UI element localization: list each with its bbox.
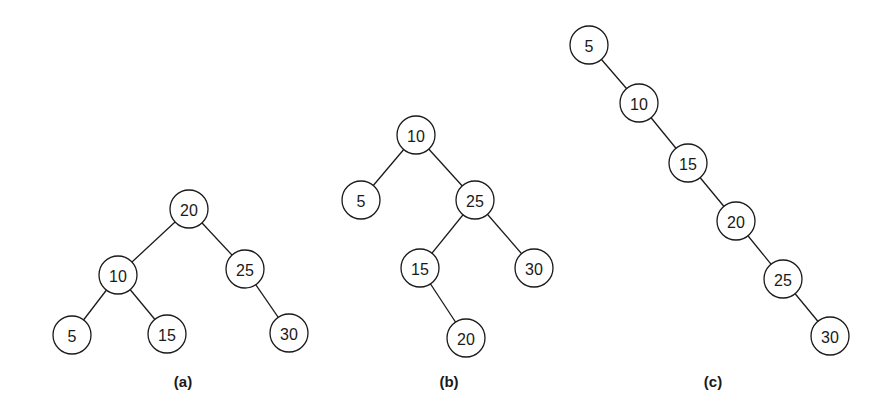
tree-node: 10 [620,84,658,122]
node-label-b-20: 20 [457,331,475,348]
node-label-c-5: 5 [585,38,594,55]
tree-node: 5 [570,26,608,64]
nodes-layer: 201025515301052515302051015202530 [53,26,849,357]
node-label-b-30: 30 [525,261,543,278]
tree-node: 20 [447,319,485,357]
node-label-a-15: 15 [158,327,176,344]
node-label-a-25: 25 [236,262,254,279]
tree-node: 15 [401,249,439,287]
caption-c: (c) [704,373,722,390]
caption-a: (a) [174,373,192,390]
tree-node: 10 [397,116,435,154]
node-label-c-25: 25 [774,272,792,289]
node-label-a-5: 5 [68,328,77,345]
tree-c: 51015202530 [570,26,849,355]
node-label-b-5: 5 [357,193,366,210]
node-label-a-30: 30 [280,326,298,343]
node-label-c-10: 10 [630,96,648,113]
tree-node: 20 [170,190,208,228]
node-label-b-10: 10 [407,128,425,145]
node-label-c-30: 30 [821,329,839,346]
tree-node: 25 [226,250,264,288]
tree-node: 30 [811,317,849,355]
node-label-a-20: 20 [180,202,198,219]
tree-node: 10 [99,256,137,294]
tree-a: 20102551530 [53,190,308,354]
tree-b: 10525153020 [342,116,553,357]
captions-layer: (a) (b) (c) [174,373,722,390]
node-label-a-10: 10 [109,268,127,285]
diagram-canvas: 201025515301052515302051015202530 (a) (b… [0,0,884,420]
tree-node: 15 [669,144,707,182]
node-label-b-15: 15 [411,261,429,278]
node-label-c-20: 20 [727,214,745,231]
caption-b: (b) [439,373,458,390]
tree-node: 25 [456,181,494,219]
tree-node: 30 [515,249,553,287]
node-label-b-25: 25 [466,193,484,210]
tree-node: 25 [764,260,802,298]
tree-node: 15 [148,315,186,353]
tree-node: 5 [53,316,91,354]
node-label-c-15: 15 [679,156,697,173]
tree-node: 5 [342,181,380,219]
tree-node: 30 [270,314,308,352]
binary-trees-diagram: 201025515301052515302051015202530 (a) (b… [0,0,884,420]
tree-node: 20 [717,202,755,240]
